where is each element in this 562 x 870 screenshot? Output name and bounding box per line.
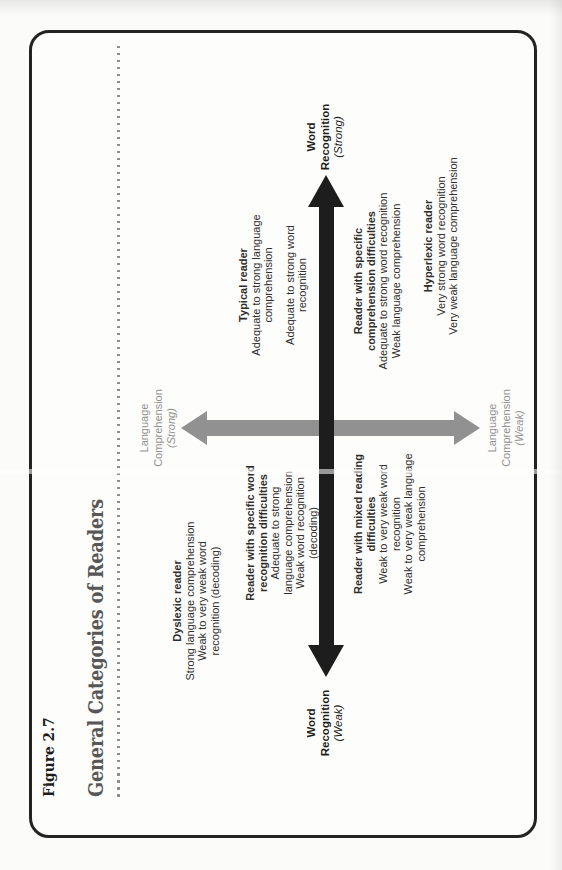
reader-detail: Weak word recognition (294, 445, 307, 621)
axis-label-line: Recognition (319, 91, 333, 183)
reader-detail: (decoding) (307, 445, 320, 621)
reader-detail: Very strong word recognition (435, 153, 448, 339)
reader-detail: Adequate to strong (269, 445, 282, 621)
reader-name: Dyslexic reader (171, 511, 184, 691)
reader-block-typical: Typical reader Adequate to strong langua… (237, 197, 309, 373)
reader-detail: Very weak language comprehension (447, 153, 460, 339)
reader-name: difficulties (365, 439, 378, 609)
reader-detail: recognition (390, 439, 403, 609)
axis-label-word-recognition-strong: Word Recognition (Strong) (305, 91, 346, 183)
axis-label-line: Word (305, 91, 319, 183)
reader-detail: recognition (296, 197, 309, 373)
lc-arrow-strong-head-icon (181, 411, 207, 445)
reader-name: Hyperlexic reader (422, 153, 435, 339)
axis-label-line: Word (305, 679, 319, 767)
reader-detail: Adequate to strong language (250, 197, 263, 373)
axis-label-language-comprehension-strong: Language Comprehension (Strong) (138, 348, 179, 508)
reader-block-hyperlexic: Hyperlexic reader Very strong word recog… (422, 153, 460, 339)
reader-detail: Weak to very weak language (402, 439, 415, 609)
reader-name: comprehension difficulties (365, 183, 378, 379)
reader-detail: Adequate to strong word (284, 197, 297, 373)
axis-label-line: Comprehension (500, 348, 514, 508)
reader-detail: Adequate to strong word recognition (377, 183, 390, 379)
reader-detail: Weak to very weak word (196, 511, 209, 691)
axis-qualifier: (Weak) (332, 679, 346, 767)
lc-arrow-weak-head-icon (454, 411, 480, 445)
axis-label-line: Language (138, 348, 152, 508)
reader-block-mixed-difficulties: Reader with mixed reading difficulties W… (352, 439, 427, 609)
figure-label: Figure 2.7 (39, 717, 59, 797)
reader-block-dyslexic: Dyslexic reader Strong language comprehe… (171, 511, 221, 691)
reader-detail: Weak language comprehension (390, 183, 403, 379)
reader-name: Reader with mixed reading (352, 439, 365, 609)
axis-qualifier: (Weak) (513, 348, 527, 508)
reader-detail: Weak to very weak word (377, 439, 390, 609)
wr-arrow-shaft (319, 207, 334, 645)
reader-detail: recognition (decoding) (209, 511, 222, 691)
scan-edge-shadow (0, 0, 562, 16)
reader-detail: language comprehension (282, 445, 295, 621)
axis-label-line: Language (486, 348, 500, 508)
reader-detail: comprehension (262, 197, 275, 373)
rotated-page-canvas: Figure 2.7 General Categories of Readers… (0, 0, 562, 870)
dotted-rule (117, 45, 120, 797)
reader-block-specific-word-recognition: Reader with specific word recognition di… (244, 445, 319, 621)
reader-block-specific-comprehension: Reader with specific comprehension diffi… (352, 183, 402, 379)
wr-arrow-weak-head-icon (308, 645, 344, 677)
figure-title: General Categories of Readers (83, 499, 109, 797)
reader-name: Reader with specific (352, 183, 365, 379)
reader-name: Typical reader (237, 197, 250, 373)
reader-name: recognition difficulties (257, 445, 270, 621)
page-frame: Figure 2.7 General Categories of Readers… (29, 30, 537, 838)
axis-label-language-comprehension-weak: Language Comprehension (Weak) (486, 348, 527, 508)
axis-label-word-recognition-weak: Word Recognition (Weak) (305, 679, 346, 767)
reader-detail: comprehension (415, 439, 428, 609)
axis-qualifier: (Strong) (165, 348, 179, 508)
axis-label-line: Comprehension (152, 348, 166, 508)
reader-name: Reader with specific word (244, 445, 257, 621)
reader-detail: Strong language comprehension (184, 511, 197, 691)
axis-qualifier: (Strong) (332, 91, 346, 183)
scan-edge-shadow (550, 0, 562, 870)
axis-label-line: Recognition (319, 679, 333, 767)
scanned-page: Figure 2.7 General Categories of Readers… (0, 0, 562, 870)
reader-detail-gap (275, 197, 284, 373)
